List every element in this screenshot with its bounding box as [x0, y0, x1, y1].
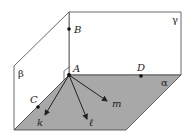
- label-A: A: [72, 63, 80, 74]
- label-alpha: α: [161, 77, 168, 88]
- label-l: ℓ: [89, 117, 93, 128]
- label-beta: β: [18, 68, 24, 79]
- label-C: C: [30, 94, 38, 105]
- label-m: m: [112, 98, 121, 109]
- point-D: [139, 74, 143, 78]
- label-k: k: [37, 117, 43, 128]
- point-B: [67, 27, 71, 31]
- point-A: [67, 73, 71, 77]
- label-gamma: γ: [172, 14, 178, 25]
- geometry-diagram: A B C D k ℓ m α β γ: [0, 0, 195, 139]
- point-C: [36, 105, 40, 109]
- label-D: D: [136, 62, 145, 73]
- plane-gamma: [69, 12, 181, 75]
- label-B: B: [73, 24, 81, 35]
